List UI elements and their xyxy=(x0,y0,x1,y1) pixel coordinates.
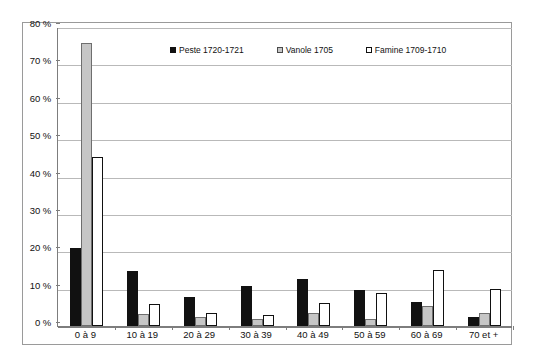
bar xyxy=(354,290,365,326)
chart-legend: Peste 1720-1721Vanole 1705Famine 1709-17… xyxy=(170,46,446,55)
y-axis-tick-mark xyxy=(56,210,60,211)
y-axis-tick-label: 10 % xyxy=(30,279,51,290)
bar-group xyxy=(456,28,513,326)
bar xyxy=(252,319,263,326)
y-axis-tick-label: 50 % xyxy=(30,130,51,141)
bar xyxy=(92,157,103,326)
bar xyxy=(422,306,433,326)
y-axis-tick-mark xyxy=(56,285,60,286)
y-axis-tick-mark xyxy=(56,60,60,61)
y-axis-tick-label: 70 % xyxy=(30,55,51,66)
y-axis-tick-mark xyxy=(56,173,60,174)
y-axis-tick-mark xyxy=(56,23,60,24)
bar xyxy=(376,293,387,326)
x-axis-tick-label: 40 à 49 xyxy=(297,329,329,340)
legend-item: Vanole 1705 xyxy=(277,46,333,55)
legend-swatch-icon xyxy=(366,47,372,53)
bars-layer xyxy=(58,28,512,326)
legend-label: Peste 1720-1721 xyxy=(179,46,244,55)
x-axis-tick-label: 30 à 39 xyxy=(240,329,272,340)
bar xyxy=(490,289,501,326)
x-axis-tick-label: 0 à 9 xyxy=(75,329,96,340)
legend-label: Famine 1709-1710 xyxy=(375,46,446,55)
x-axis-tick-mark xyxy=(513,326,514,330)
bar xyxy=(241,286,252,326)
bar xyxy=(319,303,330,326)
bar xyxy=(195,317,206,326)
bar xyxy=(81,43,92,326)
bar-group xyxy=(286,28,343,326)
y-axis-tick-label: 20 % xyxy=(30,242,51,253)
legend-swatch-icon xyxy=(277,47,283,53)
legend-item: Famine 1709-1710 xyxy=(366,46,446,55)
bar xyxy=(149,304,160,326)
bar xyxy=(263,315,274,326)
bar xyxy=(479,313,490,326)
bar xyxy=(184,297,195,326)
plot-area: Peste 1720-1721Vanole 1705Famine 1709-17… xyxy=(57,28,512,327)
bar xyxy=(468,317,479,326)
bar-group xyxy=(58,28,115,326)
y-axis-tick-label: 30 % xyxy=(30,204,51,215)
x-axis-tick-label: 50 à 59 xyxy=(354,329,386,340)
x-axis: 0 à 910 à 1920 à 2930 à 3940 à 4950 à 59… xyxy=(57,329,512,345)
bar xyxy=(308,313,319,326)
bar-group xyxy=(399,28,456,326)
bar xyxy=(206,313,217,326)
y-axis-tick-label: 40 % xyxy=(30,167,51,178)
x-axis-tick-label: 60 à 69 xyxy=(411,329,443,340)
legend-swatch-icon xyxy=(170,47,176,53)
x-axis-tick-label: 10 à 19 xyxy=(126,329,158,340)
legend-label: Vanole 1705 xyxy=(286,46,333,55)
y-axis-tick-label: 0 % xyxy=(35,317,51,328)
bar xyxy=(70,248,81,326)
y-axis-tick-label: 80 % xyxy=(30,18,51,29)
bar xyxy=(138,314,149,326)
bar xyxy=(433,270,444,326)
bar-group xyxy=(115,28,172,326)
y-axis-tick-label: 60 % xyxy=(30,92,51,103)
bar xyxy=(127,271,138,326)
bar xyxy=(297,279,308,326)
bar-group xyxy=(342,28,399,326)
y-axis-tick-mark xyxy=(56,247,60,248)
x-axis-tick-label: 20 à 29 xyxy=(183,329,215,340)
y-axis-tick-mark xyxy=(56,135,60,136)
y-axis-tick-mark xyxy=(56,98,60,99)
y-axis-tick-mark xyxy=(56,322,60,323)
bar-group xyxy=(172,28,229,326)
bar-group xyxy=(229,28,286,326)
bar xyxy=(365,319,376,326)
x-axis-tick-label: 70 et + xyxy=(469,329,498,340)
y-axis: 0 %10 %20 %30 %40 %50 %60 %70 %80 % xyxy=(23,23,57,322)
bar xyxy=(411,302,422,326)
chart-figure: Peste 1720-1721Vanole 1705Famine 1709-17… xyxy=(22,22,512,345)
legend-item: Peste 1720-1721 xyxy=(170,46,244,55)
